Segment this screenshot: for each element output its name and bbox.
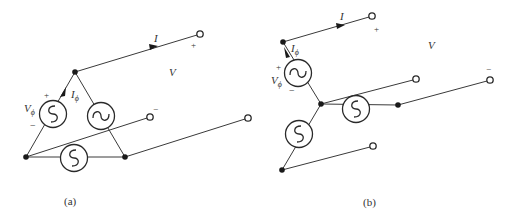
ac-voltage-source-icon [61, 145, 88, 172]
open-terminal-icon [197, 31, 203, 37]
panel-a-delta: I + V − + − Vϕ Iϕ (a) [23, 31, 251, 208]
line-voltage-label: V [169, 66, 177, 78]
phase-minus-label: − [30, 120, 36, 131]
line-voltage-label: V [428, 39, 436, 51]
line-current-label: I [339, 10, 345, 22]
open-terminal-icon [370, 143, 376, 149]
ac-voltage-source-icon [285, 60, 312, 87]
wire-b-line-top [283, 17, 369, 42]
junction-dot-icon [395, 102, 401, 108]
line-plus-label: + [374, 24, 379, 34]
line-current-label: I [153, 32, 159, 44]
line-plus-label: + [191, 40, 196, 50]
phase-voltage-label: Vϕ [271, 74, 282, 89]
phase-plus-label: + [44, 90, 49, 100]
junction-dot-icon [280, 39, 286, 45]
junction-dot-icon [122, 154, 128, 160]
panel-b-wye: I + V − + − Vϕ Iϕ (b) [271, 10, 493, 209]
ac-voltage-source-icon [286, 121, 313, 148]
phase-minus-label: − [289, 85, 295, 96]
junction-dot-icon [279, 167, 285, 173]
phase-current-label: Iϕ [70, 88, 79, 103]
open-terminal-icon [147, 114, 153, 120]
ac-voltage-source-icon [40, 101, 67, 128]
ac-voltage-source-icon [88, 103, 115, 130]
wire-a-line-top [75, 35, 197, 72]
panel-b-caption: (b) [363, 196, 376, 209]
phase-voltage-label: Vϕ [24, 102, 35, 117]
line-minus-label: − [486, 64, 491, 74]
panel-a-caption: (a) [64, 195, 77, 208]
wire-a-line-bottom [125, 119, 245, 157]
open-terminal-icon [245, 115, 251, 121]
line-minus-label: − [153, 104, 158, 114]
wire-b-line-right [398, 81, 487, 105]
junction-dot-icon [72, 69, 78, 75]
junction-dot-icon [318, 101, 324, 107]
open-terminal-icon [369, 13, 375, 19]
wire-b-line-bottom [282, 147, 370, 170]
open-terminal-icon [487, 77, 493, 83]
ac-voltage-source-icon [343, 96, 370, 123]
open-terminal-icon [413, 76, 419, 82]
three-phase-circuits-figure: I + V − + − Vϕ Iϕ (a) [0, 0, 514, 212]
junction-dot-icon [23, 154, 29, 160]
phase-plus-label: + [276, 62, 281, 72]
